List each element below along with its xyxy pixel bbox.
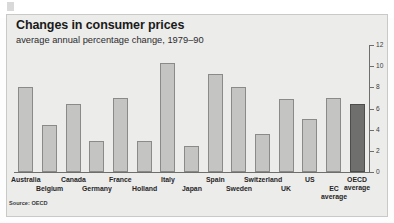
bar xyxy=(18,87,33,172)
y-axis-tick-label: 10 xyxy=(376,63,383,70)
x-axis-label-belgium: Belgium xyxy=(36,185,63,193)
bar xyxy=(302,119,317,172)
bar xyxy=(231,87,246,172)
x-axis-label-japan: Japan xyxy=(182,185,202,193)
x-axis-label-france: France xyxy=(109,176,132,184)
y-axis-tick-label: 6 xyxy=(376,106,380,113)
chart-subtitle: average annual percentage change, 1979–9… xyxy=(16,35,204,45)
x-axis-label-germany: Germany xyxy=(82,185,112,193)
y-axis-tick xyxy=(369,172,374,173)
bar xyxy=(137,141,152,172)
bar xyxy=(326,98,341,172)
chart-figure: Changes in consumer prices average annua… xyxy=(0,0,394,223)
y-axis-tick-label: 8 xyxy=(376,84,380,91)
x-axis-label-uk: UK xyxy=(281,185,291,193)
x-axis-line xyxy=(14,172,370,173)
y-axis-tick xyxy=(369,66,374,67)
x-axis-label-holland: Holland xyxy=(132,185,157,193)
y-axis-tick-label: 4 xyxy=(376,127,380,134)
chart-source-note: Source: OECD xyxy=(9,200,48,206)
y-axis-tick xyxy=(369,151,374,152)
chart-title: Changes in consumer prices xyxy=(16,18,184,32)
x-axis-label-us: US xyxy=(305,176,315,184)
x-axis-label-sweden: Sweden xyxy=(226,185,252,193)
y-axis-tick xyxy=(369,130,374,131)
y-axis-tick-label: 0 xyxy=(376,169,380,176)
bar xyxy=(42,125,57,172)
y-axis-tick xyxy=(369,109,374,110)
y-axis-tick-label: 2 xyxy=(376,148,380,155)
bar xyxy=(255,134,270,172)
x-axis-label-italy: Italy xyxy=(161,176,175,184)
bar xyxy=(279,99,294,172)
x-axis-label-australia: Australia xyxy=(11,176,41,184)
bar xyxy=(89,141,104,172)
y-axis-tick-label: 12 xyxy=(376,42,383,49)
x-axis-label-oecd-average: OECDaverage xyxy=(344,176,370,192)
bar xyxy=(208,74,223,172)
bar xyxy=(184,146,199,172)
y-axis-tick xyxy=(369,45,374,46)
corner-mark-icon xyxy=(7,2,14,11)
x-axis-label-canada: Canada xyxy=(61,176,86,184)
bar xyxy=(113,98,128,172)
y-axis-tick xyxy=(369,87,374,88)
x-axis-label-switzerland: Switzerland xyxy=(244,176,282,184)
bar xyxy=(160,63,175,172)
bars-plot-area xyxy=(14,45,369,172)
x-axis-label-spain: Spain xyxy=(206,176,225,184)
bar xyxy=(66,104,81,172)
bar xyxy=(350,104,365,172)
